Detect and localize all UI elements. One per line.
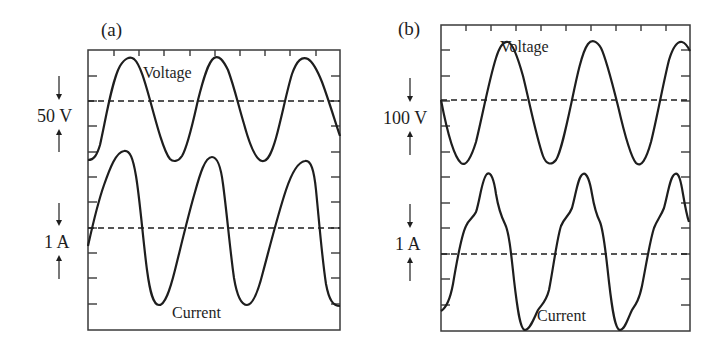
panel-a-label: (a) <box>101 19 122 41</box>
panel-b-current-label: Current <box>537 307 586 324</box>
panel-b-voltage-scale-label: 100 V <box>383 108 427 128</box>
panel-a-frame <box>88 50 340 330</box>
panel-a-voltage-scale-label: 50 V <box>37 106 72 126</box>
panel-a-current-scale-bar: 1 A <box>44 203 70 279</box>
panel-b-right-ticks <box>681 50 690 305</box>
panel-a-voltage-scale-bar: 50 V <box>37 76 72 152</box>
panel-a-voltage-trace <box>88 57 340 161</box>
panel-a-top-ticks <box>114 50 316 56</box>
panel-a-current-label: Current <box>172 304 221 321</box>
panel-b-left-ticks <box>441 50 450 305</box>
panel-a-current-scale-label: 1 A <box>44 232 70 252</box>
panel-a-left-ticks <box>88 76 97 304</box>
panel-b-frame <box>441 25 690 331</box>
panel-b-voltage-trace <box>441 41 690 164</box>
panel-b-current-scale-label: 1 A <box>395 234 421 254</box>
panel-b: (b) <box>383 18 690 331</box>
panel-b-label: (b) <box>398 18 420 40</box>
panel-b-voltage-scale-bar: 100 V <box>383 78 427 155</box>
figure: (a) <box>0 0 725 352</box>
panel-b-current-scale-bar: 1 A <box>395 204 421 281</box>
panel-a-voltage-label: Voltage <box>143 64 192 82</box>
panel-b-voltage-label: Voltage <box>500 38 549 56</box>
panel-a: (a) <box>37 19 340 330</box>
panel-b-top-ticks <box>466 25 666 31</box>
